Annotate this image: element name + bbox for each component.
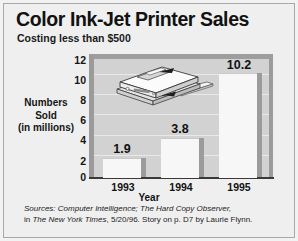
source-story-detail: , 5/20/96. Story on p. D7 by Laurie Flyn…	[106, 215, 252, 224]
y-tick-10: 10	[60, 75, 86, 85]
y-axis-label: Numbers Sold (in millions)	[6, 97, 86, 135]
bar-shadow-1993	[141, 158, 146, 177]
y-axis-label-line-3: (in millions)	[6, 122, 86, 135]
inkjet-printer-illustration	[112, 62, 216, 112]
y-tick-0: 0	[60, 172, 86, 182]
bar-1993[interactable]	[103, 158, 141, 178]
bar-1995[interactable]	[219, 73, 257, 178]
source-newspaper: The New York Times	[32, 215, 106, 224]
x-axis-label: Year	[0, 192, 298, 203]
bar-shadow-1994	[199, 138, 204, 177]
source-note: Sources: Computer Intelligence; The Hard…	[24, 204, 290, 225]
y-tick-2: 2	[60, 156, 86, 166]
source-publications: Computer Intelligence; The Hard Copy Obs…	[58, 204, 231, 213]
source-note-line-2: in The New York Times, 5/20/96. Story on…	[24, 215, 290, 226]
bar-shadow-1995	[257, 73, 262, 177]
bar-value-1994: 3.8	[158, 122, 202, 136]
source-note-line-1: Sources: Computer Intelligence; The Hard…	[24, 204, 290, 215]
plot-right-band	[269, 59, 273, 178]
bar-value-1995: 10.2	[216, 58, 262, 72]
source-prefix: Sources:	[24, 204, 58, 213]
y-axis-label-line-2: Sold	[6, 110, 86, 123]
bar-1994[interactable]	[161, 138, 199, 178]
y-tick-4: 4	[60, 135, 86, 145]
y-axis-band	[89, 54, 94, 178]
page-title: Color Ink-Jet Printer Sales	[16, 8, 249, 31]
chart-figure: Color Ink-Jet Printer Sales Costing less…	[0, 0, 298, 241]
y-axis-label-line-1: Numbers	[6, 97, 86, 110]
bar-value-1993: 1.9	[100, 142, 144, 156]
y-tick-12: 12	[60, 55, 86, 65]
